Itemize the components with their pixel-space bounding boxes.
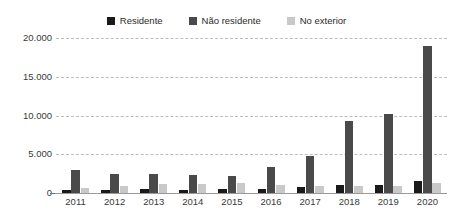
y-axis-zero-tick: [50, 193, 55, 194]
bar-2020-residente[interactable]: [414, 181, 423, 193]
bar-2014-no-exterior[interactable]: [198, 184, 207, 193]
bar-group-2013: [140, 38, 167, 193]
bar-2015-nao-residente[interactable]: [228, 176, 237, 193]
bar-2012-no-exterior[interactable]: [120, 186, 129, 193]
bar-2018-residente[interactable]: [336, 185, 345, 193]
bar-2019-residente[interactable]: [375, 185, 384, 193]
bar-group-2018: [336, 38, 363, 193]
bar-chart: Residente Não residente No exterior 05.0…: [0, 0, 453, 220]
bars-layer: [56, 38, 447, 193]
legend-label-residente: Residente: [120, 16, 163, 26]
bar-group-2016: [258, 38, 285, 193]
bar-2019-no-exterior[interactable]: [393, 186, 402, 193]
bar-2020-no-exterior[interactable]: [432, 183, 441, 193]
x-axis-tick-label-2018: 2018: [330, 197, 369, 207]
bar-group-2011: [62, 38, 89, 193]
x-axis-tick-label-2014: 2014: [173, 197, 212, 207]
legend-label-no-exterior: No exterior: [300, 16, 346, 26]
bar-2016-no-exterior[interactable]: [276, 185, 285, 193]
bar-2020-nao-residente[interactable]: [423, 46, 432, 193]
bar-group-2019: [375, 38, 402, 193]
legend-swatch-nao-residente-icon: [189, 17, 197, 25]
legend-swatch-no-exterior-icon: [287, 17, 295, 25]
bar-group-2017: [297, 38, 324, 193]
x-axis-tick-label-2011: 2011: [56, 197, 95, 207]
legend-item-no-exterior[interactable]: No exterior: [287, 16, 346, 26]
bar-2014-nao-residente[interactable]: [189, 175, 198, 193]
bar-group-2020: [414, 38, 441, 193]
bar-2013-no-exterior[interactable]: [159, 184, 168, 193]
legend-item-nao-residente[interactable]: Não residente: [189, 16, 261, 26]
bar-2015-no-exterior[interactable]: [237, 183, 246, 193]
x-axis: 2011201220132014201520162017201820192020: [56, 195, 447, 215]
bar-2018-nao-residente[interactable]: [345, 121, 354, 193]
x-axis-tick-label-2012: 2012: [95, 197, 134, 207]
x-axis-tick-label-2017: 2017: [291, 197, 330, 207]
x-axis-tick-label-2013: 2013: [134, 197, 173, 207]
y-axis-tick-label: 10.000: [4, 111, 52, 121]
bar-2018-no-exterior[interactable]: [354, 186, 363, 193]
bar-2013-nao-residente[interactable]: [149, 174, 158, 193]
x-axis-tick-label-2020: 2020: [408, 197, 447, 207]
legend-label-nao-residente: Não residente: [202, 16, 261, 26]
bar-2016-nao-residente[interactable]: [267, 167, 276, 193]
x-axis-tick-label-2015: 2015: [212, 197, 251, 207]
bar-2019-nao-residente[interactable]: [384, 114, 393, 193]
bar-group-2012: [101, 38, 128, 193]
bar-2017-no-exterior[interactable]: [315, 186, 324, 193]
bar-group-2015: [218, 38, 245, 193]
legend-swatch-residente-icon: [107, 17, 115, 25]
y-axis-tick-label: 0: [4, 188, 52, 198]
x-axis-line: [52, 193, 447, 194]
legend-item-residente[interactable]: Residente: [107, 16, 163, 26]
y-axis: 05.00010.00015.00020.000: [0, 0, 52, 220]
y-axis-tick-label: 20.000: [4, 33, 52, 43]
x-axis-tick-label-2019: 2019: [369, 197, 408, 207]
bar-2017-nao-residente[interactable]: [306, 156, 315, 193]
x-axis-tick-label-2016: 2016: [252, 197, 291, 207]
chart-legend: Residente Não residente No exterior: [0, 16, 453, 26]
bar-2011-nao-residente[interactable]: [71, 170, 80, 193]
y-axis-tick-label: 5.000: [4, 150, 52, 160]
bar-group-2014: [179, 38, 206, 193]
bar-2012-nao-residente[interactable]: [110, 174, 119, 193]
y-axis-tick-label: 15.000: [4, 72, 52, 82]
